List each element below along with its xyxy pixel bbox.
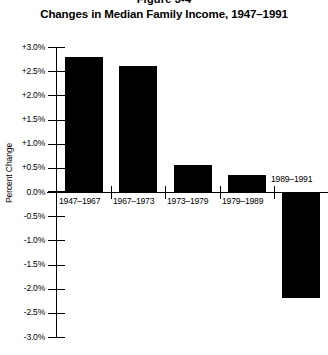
y-tick-label-wrap: +2.0% xyxy=(0,91,45,100)
bar-chart: +3.0%+2.5%+2.0%+1.5%+1.0%+0.5%0.0%-0.5%-… xyxy=(0,0,328,355)
y-tick xyxy=(48,168,65,169)
y-tick xyxy=(48,47,65,48)
y-tick-label-wrap: -2.5% xyxy=(0,308,45,317)
y-tick-label: -2.5% xyxy=(5,308,45,317)
y-tick xyxy=(48,191,65,193)
y-tick xyxy=(48,289,65,290)
y-tick-label: +3.0% xyxy=(5,43,45,52)
category-label: 1979–1989 xyxy=(222,197,276,206)
y-tick xyxy=(48,144,65,145)
category-label: 1989–1991 xyxy=(271,175,325,184)
y-tick-label: -1.5% xyxy=(5,260,45,269)
y-tick-label-wrap: -1.5% xyxy=(0,260,45,269)
category-label: 1967–1973 xyxy=(113,197,167,206)
y-tick xyxy=(48,120,65,121)
bar xyxy=(65,57,103,192)
y-tick-label: +2.5% xyxy=(5,67,45,76)
category-label: 1973–1979 xyxy=(167,197,221,206)
category-label: 1947–1967 xyxy=(59,197,113,206)
y-tick-label-wrap: -2.0% xyxy=(0,284,45,293)
y-tick-label-wrap: +3.0% xyxy=(0,43,45,52)
y-tick xyxy=(48,337,65,338)
y-tick-label-wrap: -3.0% xyxy=(0,333,45,342)
y-tick-label: -1.0% xyxy=(5,236,45,245)
figure-container: Figure 3-4 Changes in Median Family Inco… xyxy=(0,0,328,355)
y-tick xyxy=(48,95,65,96)
y-tick xyxy=(48,265,65,266)
y-tick xyxy=(48,71,65,72)
bar xyxy=(228,175,266,192)
y-tick-label: +2.0% xyxy=(5,91,45,100)
y-tick-label-wrap: +2.5% xyxy=(0,67,45,76)
y-tick xyxy=(48,216,65,217)
y-tick-label: -3.0% xyxy=(5,333,45,342)
y-tick-label: -2.0% xyxy=(5,284,45,293)
bar xyxy=(119,66,157,192)
y-axis-title: Percent Change xyxy=(4,123,14,223)
y-tick xyxy=(48,313,65,314)
y-tick xyxy=(48,240,65,241)
y-tick-label-wrap: -1.0% xyxy=(0,236,45,245)
bar xyxy=(174,165,212,192)
bar xyxy=(282,192,320,298)
